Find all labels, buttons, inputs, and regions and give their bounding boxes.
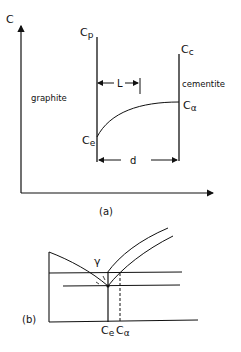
concentration-profile-curve bbox=[97, 102, 179, 137]
b-small-tick-2 bbox=[96, 282, 99, 284]
dim-L-label: L bbox=[117, 78, 123, 89]
label-ce: Ce bbox=[82, 134, 96, 148]
figure-b: γ Ce Cα (b) bbox=[22, 228, 198, 338]
figure-a: C Cp Cc graphite cementite Ce Cα L d (a) bbox=[6, 13, 225, 217]
label-cc: Cc bbox=[181, 43, 194, 57]
graphite-label: graphite bbox=[31, 93, 67, 103]
gamma-label: γ bbox=[94, 255, 101, 268]
b-label-ca: Cα bbox=[116, 324, 130, 338]
b-isotherm-lower bbox=[63, 285, 180, 286]
y-axis-label: C bbox=[6, 13, 14, 26]
b-intersection-dot bbox=[106, 284, 109, 287]
label-ca: Cα bbox=[183, 99, 197, 113]
caption-b: (b) bbox=[22, 314, 36, 325]
b-isotherm-upper bbox=[49, 272, 182, 273]
diagram-canvas: C Cp Cc graphite cementite Ce Cα L d (a) bbox=[0, 0, 241, 352]
b-baseline bbox=[49, 320, 198, 322]
b-small-tick-1 bbox=[103, 276, 105, 280]
cementite-label: cementite bbox=[182, 79, 225, 89]
b-label-ce: Ce bbox=[101, 324, 115, 338]
b-upper-curve-1 bbox=[107, 228, 168, 273]
caption-a: (a) bbox=[99, 206, 113, 217]
dim-d-label: d bbox=[130, 155, 136, 166]
label-cp: Cp bbox=[80, 26, 94, 40]
